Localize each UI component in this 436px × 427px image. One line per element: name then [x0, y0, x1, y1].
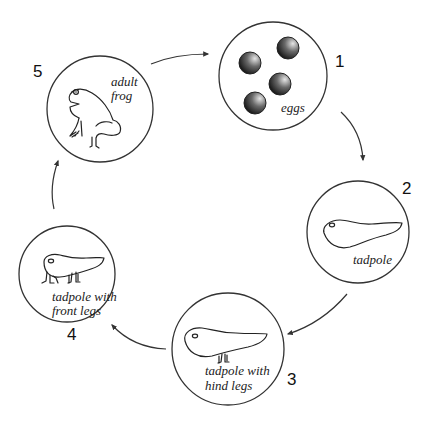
stage-2-tadpole: tadpole 2 [307, 179, 411, 283]
tadpole-hind-legs-icon [185, 328, 267, 363]
stage-3-tadpole-hind-legs: tadpole with hind legs 3 [172, 293, 296, 405]
arrow-4-to-5 [52, 161, 58, 209]
stage-2-label: tadpole [353, 252, 392, 267]
stage-5-number: 5 [33, 62, 42, 81]
stage-3-label: tadpole with hind legs [205, 363, 273, 393]
stage-1-eggs: eggs 1 [219, 22, 344, 130]
stage-5-circle [47, 56, 153, 162]
tadpole-front-legs-icon [42, 254, 104, 283]
arrow-2-to-3 [288, 294, 347, 334]
stage-4-tadpole-front-legs: tadpole with front legs 4 [19, 226, 120, 344]
tadpole-icon [324, 220, 402, 248]
stage-5-adult-frog: adult frog 5 [33, 56, 153, 162]
stage-4-label: tadpole with front legs [52, 289, 120, 318]
stage-2-number: 2 [402, 179, 411, 198]
arrow-3-to-4 [112, 325, 166, 349]
stage-4-number: 4 [67, 325, 76, 344]
stage-5-label: adult frog [111, 74, 141, 103]
stage-1-label: eggs [281, 100, 305, 115]
arrow-5-to-1 [151, 54, 208, 64]
arrow-1-to-2 [341, 112, 363, 160]
frog-life-cycle-diagram: eggs 1 tadpole 2 tadpole with hind legs … [0, 0, 436, 427]
stage-3-number: 3 [287, 370, 296, 389]
stage-1-number: 1 [335, 52, 344, 71]
